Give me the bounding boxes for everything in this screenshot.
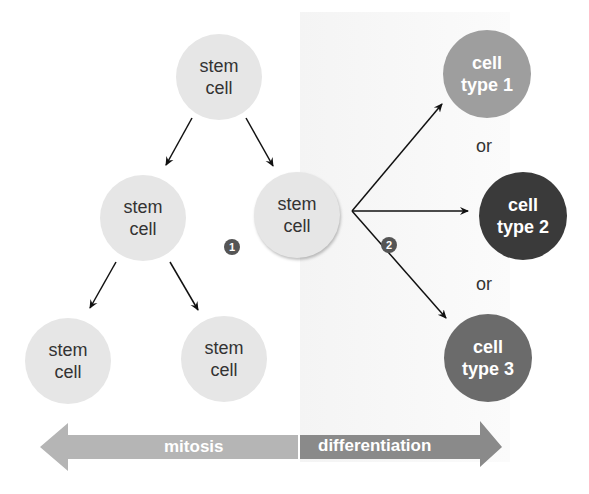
stem-cell-label-line2: cell [205, 77, 232, 99]
arrow-top-to-mid-right [246, 118, 273, 166]
stem-cell-mid-right: stem cell [254, 172, 340, 258]
differentiation-label: differentiation [318, 436, 431, 456]
or-label-2: or [476, 274, 492, 295]
cell-type-label-line1: cell [472, 52, 502, 74]
stem-cell-label-line2: cell [210, 359, 237, 381]
cell-type-3: cell type 3 [444, 314, 532, 402]
arrow-mid-to-bottom-right [170, 262, 198, 310]
arrow-to-type3 [352, 211, 446, 318]
stem-cell-mid-left: stem cell [100, 175, 186, 261]
stem-cell-label-line2: cell [129, 218, 156, 240]
cell-type-label-line2: type 2 [497, 216, 549, 238]
cell-type-label-line2: type 3 [462, 358, 514, 380]
cell-type-2: cell type 2 [479, 172, 567, 260]
arrow-mid-to-bottom-left [90, 262, 116, 308]
cell-type-label-line1: cell [508, 194, 538, 216]
cell-type-label-line1: cell [473, 336, 503, 358]
stem-cell-label-line1: stem [199, 55, 238, 77]
stem-cell-bottom-left: stem cell [25, 318, 111, 404]
stem-cell-top: stem cell [176, 34, 262, 120]
cell-type-1: cell type 1 [443, 30, 531, 118]
stem-cell-label-line1: stem [123, 196, 162, 218]
or-label-1: or [476, 136, 492, 157]
arrow-top-to-mid-left [166, 118, 192, 165]
stem-cell-label-line1: stem [48, 339, 87, 361]
stem-cell-label-line1: stem [277, 193, 316, 215]
step-badge-2: 2 [381, 237, 397, 253]
stem-cell-label-line1: stem [204, 337, 243, 359]
step-badge-1: 1 [224, 239, 240, 255]
mitosis-label: mitosis [164, 437, 224, 457]
cell-type-label-line2: type 1 [461, 74, 513, 96]
stem-cell-label-line2: cell [54, 361, 81, 383]
arrow-to-type1 [352, 104, 442, 211]
stem-cell-label-line2: cell [283, 215, 310, 237]
stem-cell-bottom-right: stem cell [181, 316, 267, 402]
